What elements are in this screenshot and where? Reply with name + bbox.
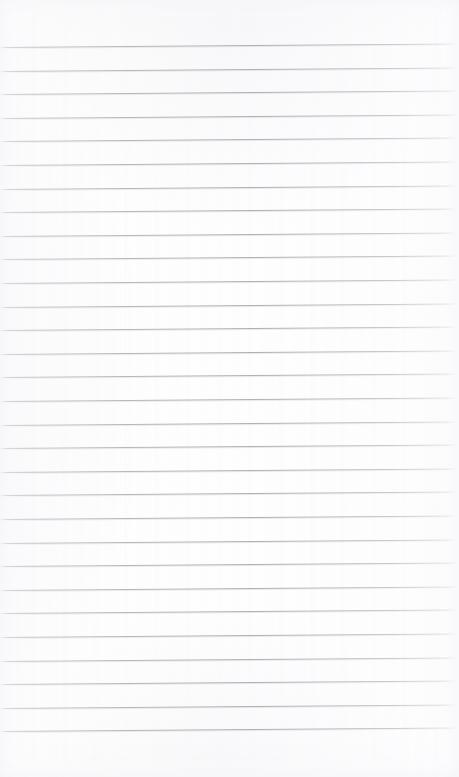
ruled-line — [0, 161, 459, 166]
ruled-line — [0, 256, 459, 261]
ruled-line — [0, 681, 459, 686]
ruled-line — [0, 728, 459, 733]
ruled-line — [0, 468, 459, 473]
ruled-line — [0, 610, 459, 615]
ruled-line — [0, 114, 459, 119]
ruled-line — [0, 492, 459, 497]
ruled-line — [0, 279, 459, 284]
notebook-page — [0, 0, 459, 777]
ruled-line — [0, 586, 459, 591]
ruled-line — [0, 209, 459, 214]
ruled-line — [0, 350, 459, 355]
ruled-line — [0, 445, 459, 450]
ruled-line — [0, 539, 459, 544]
ruled-line — [0, 563, 459, 568]
ruled-line — [0, 374, 459, 379]
ruled-line — [0, 397, 459, 402]
ruled-line — [0, 185, 459, 190]
ruled-line — [0, 138, 459, 143]
ruled-line — [0, 515, 459, 520]
ruled-line — [0, 327, 459, 332]
ruled-line — [0, 633, 459, 638]
ruled-line — [0, 704, 459, 709]
ruled-line — [0, 657, 459, 662]
ruled-lines-group — [0, 0, 459, 777]
ruled-line — [0, 303, 459, 308]
ruled-line — [0, 232, 459, 237]
ruled-line — [0, 421, 459, 426]
ruled-line — [0, 43, 459, 48]
ruled-line — [0, 67, 459, 72]
ruled-line — [0, 91, 459, 96]
